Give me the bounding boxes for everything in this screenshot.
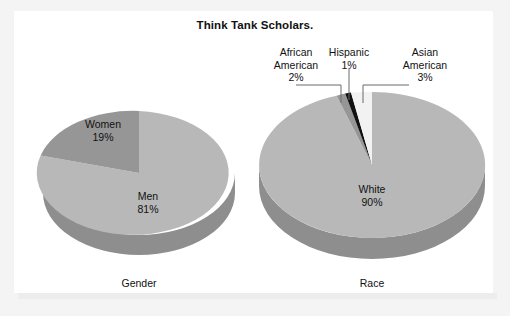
chart-page: Think Tank Scholars. Women 19% Men 81%: [0, 0, 510, 316]
race-slice-white: [259, 92, 485, 238]
gender-label-men-value: 81%: [100, 203, 196, 216]
gender-label-men-name: Men: [100, 190, 196, 203]
race-label-white: White 90%: [324, 183, 420, 208]
gender-label-women-value: 19%: [55, 131, 151, 144]
gender-label-men: Men 81%: [100, 190, 196, 215]
race-label-african-american-value: 2%: [250, 71, 342, 84]
gender-label-women: Women 19%: [55, 118, 151, 143]
gender-label-women-name: Women: [55, 118, 151, 131]
gender-chart-caption: Gender: [91, 277, 187, 289]
race-label-asian-american: Asian American 3%: [379, 46, 471, 84]
race-label-asian-american-value: 3%: [379, 71, 471, 84]
race-label-asian-american-line2: American: [379, 59, 471, 72]
race-label-white-value: 90%: [324, 196, 420, 209]
race-label-white-name: White: [324, 183, 420, 196]
race-chart-caption: Race: [324, 277, 420, 289]
race-label-asian-american-line1: Asian: [379, 46, 471, 59]
